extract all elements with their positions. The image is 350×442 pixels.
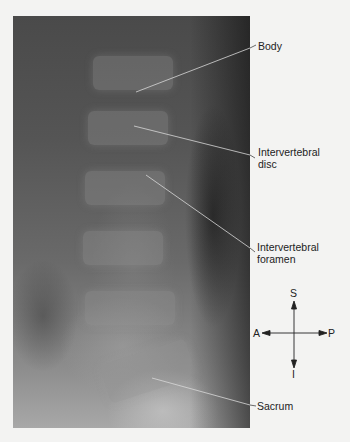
leader-lines	[0, 0, 350, 442]
label-body: Body	[258, 40, 282, 52]
leader-line-foramen	[146, 175, 250, 248]
label-intervertebral-foramen: Intervertebral foramen	[257, 241, 319, 265]
leader-line-disc	[134, 126, 250, 155]
label-intervertebral-disc: Intervertebral disc	[258, 146, 320, 170]
leader-line-body	[136, 48, 250, 92]
compass-arrows	[262, 301, 327, 368]
arrow-up-icon	[292, 301, 297, 309]
leader-line-sacrum	[152, 378, 250, 405]
figure: Body Intervertebral disc Intervertebral …	[0, 0, 350, 442]
label-sacrum: Sacrum	[257, 400, 293, 412]
arrow-down-icon	[292, 360, 297, 368]
compass-posterior: P	[328, 328, 335, 339]
compass-inferior: I	[292, 369, 295, 380]
compass-superior: S	[290, 288, 297, 299]
compass-anterior: A	[253, 328, 260, 339]
arrow-right-icon	[319, 331, 327, 336]
arrow-left-icon	[262, 331, 270, 336]
